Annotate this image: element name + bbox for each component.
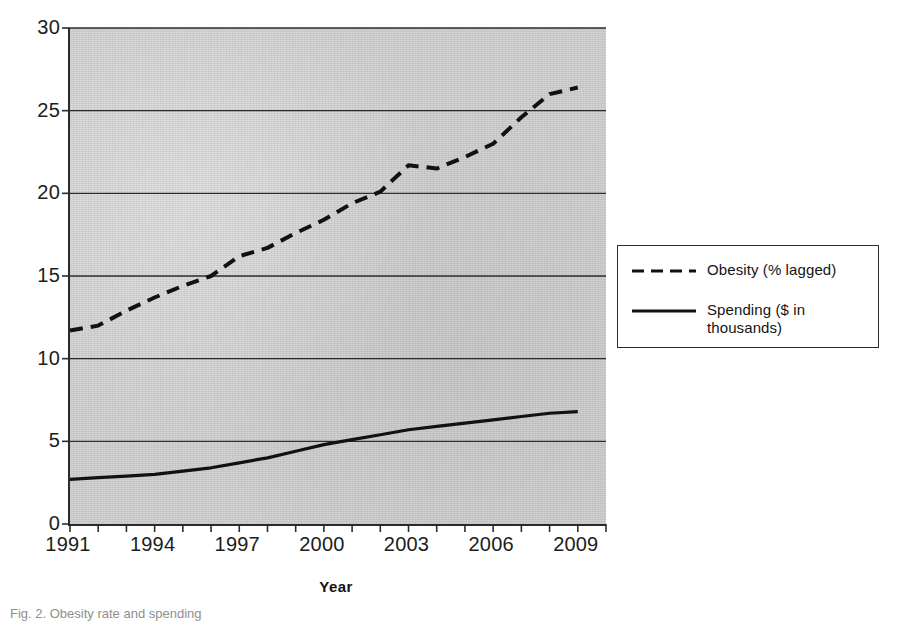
figure-root: 051015202530 199119941997200020032006200… [0,0,904,621]
x-axis-tick-labels: 1991199419972000200320062009 [68,533,604,559]
x-axis-label-2000: 2000 [299,533,344,555]
chart-legend: Obesity (% lagged) Spending ($ in thousa… [617,245,879,348]
x-axis-label-1991: 1991 [45,533,90,555]
y-axis-label-30: 30 [12,17,60,37]
y-axis-label-20: 20 [12,182,60,202]
legend-dashed-line-icon [630,264,698,278]
y-axis-label-10: 10 [12,348,60,368]
series-line-spending [70,412,578,480]
x-axis-title: Year [68,578,604,595]
legend-label-obesity: Obesity (% lagged) [707,261,836,279]
y-axis-label-25: 25 [12,100,60,120]
chart-canvas [70,28,606,524]
plot-area [68,28,606,526]
x-axis-label-2006: 2006 [469,533,514,555]
figure-caption: Fig. 2. Obesity rate and spending [10,606,710,621]
legend-solid-line-icon [630,304,698,318]
legend-item-spending: Spending ($ in thousands) [630,301,877,337]
legend-item-obesity: Obesity (% lagged) [630,261,836,279]
series-line-obesity [70,88,578,331]
x-axis-label-1994: 1994 [130,533,175,555]
x-axis-label-2003: 2003 [384,533,429,555]
y-axis-label-5: 5 [12,430,60,450]
x-axis-label-2009: 2009 [553,533,598,555]
y-axis-label-15: 15 [12,265,60,285]
y-axis-tick-labels: 051015202530 [6,28,60,524]
y-axis-label-0: 0 [12,513,60,533]
x-axis-label-1997: 1997 [215,533,260,555]
legend-label-spending: Spending ($ in thousands) [707,301,877,337]
